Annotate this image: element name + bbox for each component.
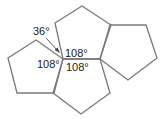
angle-bottom-label: 108° <box>66 61 89 73</box>
arrow-icon <box>46 38 60 53</box>
pentagon-diagram: 36° 108° 108° 108° <box>0 0 167 119</box>
gap-angle-label: 36° <box>33 25 50 37</box>
angle-left-label: 108° <box>37 58 60 70</box>
angle-top-label: 108° <box>65 47 88 59</box>
